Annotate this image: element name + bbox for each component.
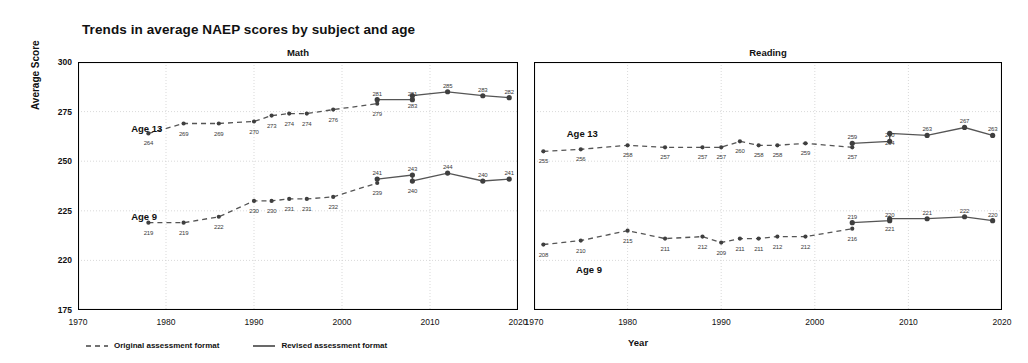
x-tick-2000: 2000: [322, 317, 362, 327]
data-point: [700, 145, 704, 149]
data-label: 260: [885, 132, 894, 138]
data-label: 258: [773, 152, 782, 158]
x-tick-1970: 1970: [58, 317, 98, 327]
data-point: [217, 121, 221, 125]
x-tick-2010: 2010: [410, 317, 450, 327]
data-point: [579, 238, 583, 242]
data-point: [663, 145, 667, 149]
series-line-original-age9: [148, 183, 377, 223]
data-point: [663, 236, 667, 240]
data-point: [803, 234, 807, 238]
panel-title-math: Math: [78, 47, 518, 58]
data-point: [541, 242, 545, 246]
data-point: [990, 133, 995, 138]
x-tick-1980: 1980: [608, 317, 648, 327]
data-point: [270, 199, 274, 203]
data-point: [757, 143, 761, 147]
data-label: 255: [539, 158, 548, 164]
data-label: 215: [623, 238, 632, 244]
data-label: 230: [267, 208, 276, 214]
data-point: [445, 89, 450, 94]
annotation-age-9: Age 9: [576, 264, 602, 275]
x-tick-1980: 1980: [146, 317, 186, 327]
data-label: 244: [443, 164, 452, 170]
legend-label-revised: Revised assessment format: [281, 341, 387, 350]
legend-item-revised: Revised assessment format: [253, 341, 387, 350]
data-point: [480, 178, 485, 183]
data-point: [331, 195, 335, 199]
data-label: 260: [735, 148, 744, 154]
data-label: 211: [735, 246, 744, 252]
data-point: [410, 172, 415, 177]
y-axis-label: Average Score: [30, 40, 41, 110]
data-label: 258: [754, 152, 763, 158]
data-point: [990, 218, 995, 223]
data-point: [775, 143, 779, 147]
annotation-age-13: Age 13: [131, 123, 162, 134]
annotation-age-13: Age 13: [567, 128, 598, 139]
chart-title: Trends in average NAEP scores by subject…: [82, 22, 415, 37]
data-label: 230: [249, 208, 258, 214]
chart-svg-math: [78, 62, 518, 310]
data-point: [626, 143, 630, 147]
data-label: 258: [623, 152, 632, 158]
data-label: 259: [848, 134, 857, 140]
data-point: [507, 176, 512, 181]
y-tick-225: 225: [44, 206, 72, 216]
data-label: 219: [179, 230, 188, 236]
data-label: 222: [214, 224, 223, 230]
data-point: [217, 215, 221, 219]
data-label: 257: [848, 154, 857, 160]
data-label: 256: [576, 156, 585, 162]
legend-item-original: Original assessment format: [86, 341, 219, 350]
data-label: 219: [848, 214, 857, 220]
plot-area-reading: 2552562582572572572602582582592572592602…: [534, 62, 1002, 310]
series-line-revised-age13: [377, 92, 509, 100]
data-label: 239: [372, 190, 381, 196]
data-label: 274: [302, 121, 311, 127]
data-point: [287, 197, 291, 201]
data-label: 220: [885, 212, 894, 218]
data-label: 257: [698, 154, 707, 160]
x-tick-1970: 1970: [514, 317, 554, 327]
data-point: [375, 97, 380, 102]
data-point: [305, 197, 309, 201]
data-label: 283: [408, 103, 417, 109]
data-label: 221: [922, 210, 931, 216]
data-label: 212: [698, 244, 707, 250]
data-label: 208: [539, 252, 548, 258]
data-label: 283: [478, 87, 487, 93]
data-label: 285: [443, 83, 452, 89]
data-label: 219: [144, 230, 153, 236]
data-label: 216: [848, 236, 857, 242]
data-point: [775, 234, 779, 238]
x-axis-label: Year: [628, 337, 648, 348]
y-tick-275: 275: [44, 107, 72, 117]
data-point: [410, 178, 415, 183]
data-point: [252, 199, 256, 203]
data-point: [757, 236, 761, 240]
data-point: [850, 227, 854, 231]
data-label: 270: [249, 129, 258, 135]
data-point: [626, 229, 630, 233]
data-point: [719, 145, 723, 149]
x-tick-2000: 2000: [795, 317, 835, 327]
data-label: 240: [478, 172, 487, 178]
legend-dashed-line-icon: [86, 342, 108, 350]
x-tick-1990: 1990: [234, 317, 274, 327]
data-label: 263: [988, 126, 997, 132]
data-point: [541, 149, 545, 153]
data-label: 220: [988, 212, 997, 218]
data-point: [962, 125, 967, 130]
legend-solid-line-icon: [253, 342, 275, 350]
data-label: 231: [302, 206, 311, 212]
panel-title-reading: Reading: [534, 47, 1002, 58]
series-line-original-age13: [148, 104, 377, 134]
data-point: [925, 133, 930, 138]
data-point: [331, 108, 335, 112]
data-label: 274: [284, 121, 293, 127]
data-point: [182, 121, 186, 125]
data-label: 276: [328, 117, 337, 123]
data-point: [850, 220, 855, 225]
data-point: [270, 113, 274, 117]
